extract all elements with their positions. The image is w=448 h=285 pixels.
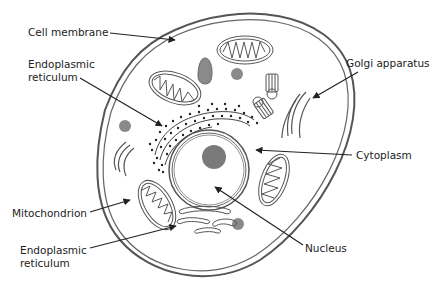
label-mitochondrion: Mitochondrion [12,207,87,220]
label-endoplasmic-reticulum-top: Endoplasmic reticulum [28,58,95,84]
label-cell-membrane: Cell membrane [28,26,108,39]
label-arrows [80,33,358,248]
label-endoplasmic-reticulum-bottom: Endoplasmic reticulum [20,244,87,270]
mitochondrion-right [253,150,296,210]
label-golgi-apparatus: Golgi apparatus [346,57,430,70]
animal-cell-diagram [0,0,448,285]
golgi-apparatus-right [282,92,310,138]
arrow-mitochondrion [90,200,130,212]
arrow-golgi [313,72,358,98]
nucleus [169,130,249,210]
arrow-er-bottom [90,226,176,248]
nucleolus [202,145,226,169]
vacuole [198,58,212,84]
golgi-apparatus-left [114,142,134,176]
smooth-endoplasmic-reticulum [177,206,236,233]
centrioles [253,74,278,119]
label-cytoplasm: Cytoplasm [356,149,412,162]
label-nucleus: Nucleus [305,242,347,255]
mitochondrion-upper-left [144,65,205,112]
mitochondrion-top [217,36,273,64]
